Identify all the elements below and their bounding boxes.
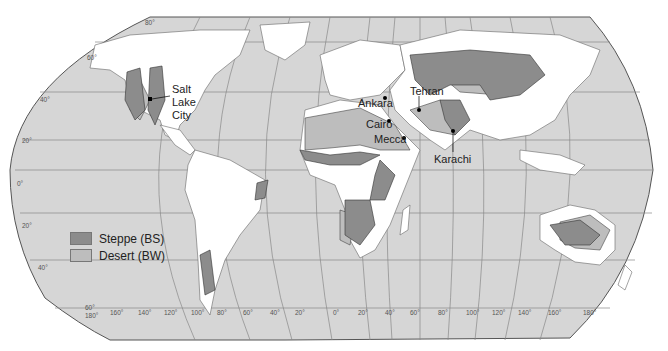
lon-label: 0° xyxy=(333,309,340,316)
lon-label: 180° xyxy=(85,312,99,319)
lon-label: 20° xyxy=(295,309,305,316)
city-label-ankara: Ankara xyxy=(358,97,394,109)
lon-label: 80° xyxy=(217,309,227,316)
lon-label: 100° xyxy=(466,309,480,316)
lon-label: 180° xyxy=(583,309,597,316)
lon-label: 60° xyxy=(410,309,420,316)
legend-label-steppe: Steppe (BS) xyxy=(99,232,164,246)
lat-label-40s: 40° xyxy=(38,264,48,271)
legend-label-desert: Desert (BW) xyxy=(99,249,165,263)
city-label-city: City xyxy=(172,109,191,121)
legend: Steppe (BS) Desert (BW) xyxy=(70,230,165,264)
steppe-swatch xyxy=(70,232,92,245)
lon-label: 160° xyxy=(548,309,562,316)
lat-label-40n: 40° xyxy=(40,96,50,103)
lon-label: 60° xyxy=(243,309,253,316)
lat-label-20s: 20° xyxy=(22,222,32,229)
legend-item-desert: Desert (BW) xyxy=(70,247,165,264)
lat-label-60s: 60° xyxy=(85,304,95,311)
city-cairo: Cairo xyxy=(366,118,392,130)
lat-label-80n: 80° xyxy=(145,19,155,26)
lon-label: 140° xyxy=(138,309,152,316)
city-ankara: Ankara xyxy=(358,96,394,109)
lat-label-60n: 60° xyxy=(87,54,97,61)
city-label-lake: Lake xyxy=(172,96,196,108)
lon-label: 80° xyxy=(438,309,448,316)
lat-label-20n: 20° xyxy=(22,137,32,144)
lon-label: 40° xyxy=(270,309,280,316)
lon-label: 40° xyxy=(385,309,395,316)
lon-label: 120° xyxy=(492,309,506,316)
desert-swatch xyxy=(70,249,92,262)
legend-item-steppe: Steppe (BS) xyxy=(70,230,165,247)
lon-label: 160° xyxy=(110,309,124,316)
city-label-tehran: Tehran xyxy=(410,85,444,97)
city-label-salt: Salt xyxy=(172,83,191,95)
city-mecca: Mecca xyxy=(374,133,407,145)
city-label-mecca: Mecca xyxy=(374,133,407,145)
city-label-karachi: Karachi xyxy=(434,153,471,165)
world-map: 80° 60° 40° 20° 0° 20° 40° 60° 180°160°1… xyxy=(0,0,668,351)
lon-label: 140° xyxy=(518,309,532,316)
lat-label-0: 0° xyxy=(17,180,24,187)
city-label-cairo: Cairo xyxy=(366,118,392,130)
lon-label: 20° xyxy=(358,309,368,316)
lon-label: 120° xyxy=(164,309,178,316)
lon-label: 100° xyxy=(191,309,205,316)
